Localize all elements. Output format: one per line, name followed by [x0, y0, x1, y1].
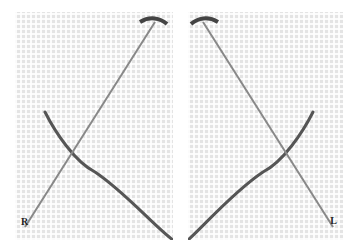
- photo-panel-right-handed: R: [15, 12, 173, 240]
- needle-and-thread-illustration: [188, 12, 343, 240]
- needle-and-thread-illustration: [15, 12, 173, 240]
- panel-label: L: [330, 215, 337, 226]
- photo-panel-left-handed: L: [188, 12, 343, 240]
- panel-label: R: [21, 216, 28, 227]
